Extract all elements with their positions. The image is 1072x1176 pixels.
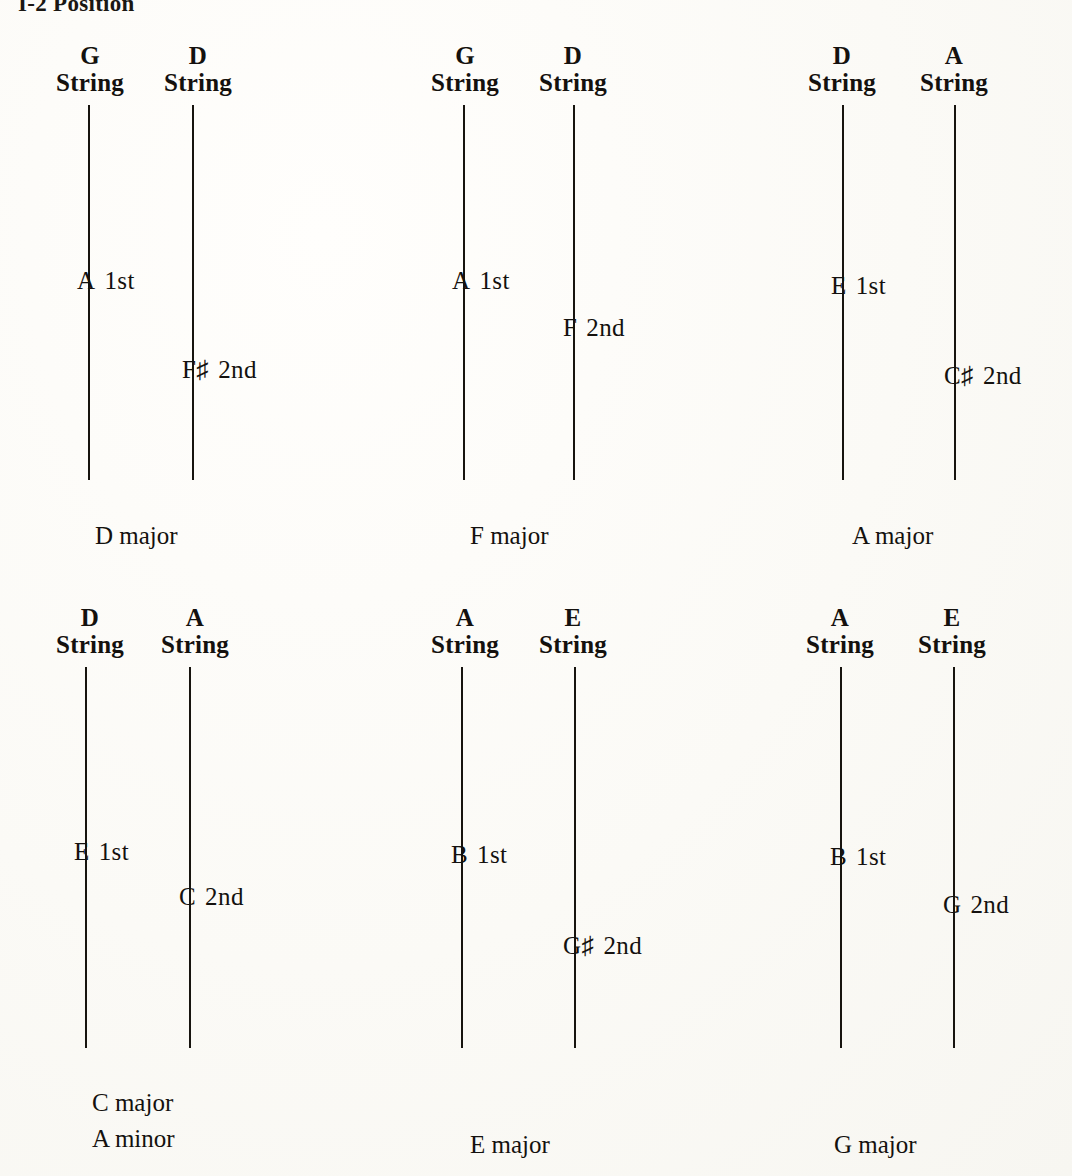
note-marker-right: F♯2nd <box>182 357 257 382</box>
chord-caption: G major <box>834 1127 917 1163</box>
string-line-right <box>573 105 575 480</box>
note-marker-name: G <box>943 891 961 918</box>
string-head-word: String <box>904 70 1004 97</box>
string-head-word: String <box>148 70 248 97</box>
string-head-left: G String <box>40 43 140 96</box>
note-marker-left: A1st <box>77 268 135 293</box>
caption-line: D major <box>95 518 178 554</box>
string-head-right: D String <box>148 43 248 96</box>
note-marker-name: E <box>74 838 90 865</box>
note-marker-right: G♯2nd <box>563 933 642 958</box>
note-marker-name: C <box>179 883 196 910</box>
string-line-right <box>192 105 194 480</box>
string-head-left: A String <box>790 605 890 658</box>
note-marker-finger: 2nd <box>205 883 244 910</box>
string-head-note: A <box>790 605 890 632</box>
note-marker-name: F <box>563 314 577 341</box>
note-marker-right: G2nd <box>943 892 1009 917</box>
string-head-right: E String <box>523 605 623 658</box>
string-head-note: D <box>792 43 892 70</box>
string-head-word: String <box>790 632 890 659</box>
string-head-word: String <box>792 70 892 97</box>
string-head-left: D String <box>40 605 140 658</box>
note-marker-finger: 1st <box>477 841 507 868</box>
note-marker-accidental: ♯ <box>196 356 209 383</box>
string-head-word: String <box>415 70 515 97</box>
string-head-note: D <box>523 43 623 70</box>
string-head-right: D String <box>523 43 623 96</box>
note-marker-name: A <box>452 267 470 294</box>
note-marker-name: B <box>451 841 468 868</box>
note-marker-finger: 2nd <box>603 932 642 959</box>
note-marker-finger: 2nd <box>218 356 257 383</box>
chord-caption: D major <box>95 518 178 554</box>
string-head-note: E <box>523 605 623 632</box>
note-marker-right: C♯2nd <box>944 363 1022 388</box>
string-line-right <box>574 667 576 1048</box>
caption-line: A minor <box>92 1121 175 1157</box>
string-head-word: String <box>523 632 623 659</box>
chord-diagram-grid: G String D String A1st F♯2nd D major G S… <box>0 0 1072 1176</box>
note-marker-right: C2nd <box>179 884 244 909</box>
string-head-word: String <box>40 632 140 659</box>
note-marker-finger: 1st <box>99 838 129 865</box>
string-head-left: D String <box>792 43 892 96</box>
note-marker-name: C <box>944 362 961 389</box>
string-head-note: D <box>40 605 140 632</box>
note-marker-finger: 2nd <box>970 891 1009 918</box>
string-line-right <box>189 667 191 1048</box>
note-marker-name: F <box>182 356 196 383</box>
note-marker-name: G <box>563 932 581 959</box>
string-head-word: String <box>415 632 515 659</box>
string-line-right <box>953 667 955 1048</box>
note-marker-left: B1st <box>830 844 886 869</box>
chord-caption: A major <box>852 518 933 554</box>
note-marker-accidental: ♯ <box>581 932 594 959</box>
string-line-right <box>954 105 956 480</box>
string-head-right: A String <box>145 605 245 658</box>
note-marker-finger: 1st <box>104 267 134 294</box>
string-head-note: A <box>145 605 245 632</box>
note-marker-finger: 1st <box>856 843 886 870</box>
string-head-word: String <box>145 632 245 659</box>
string-head-word: String <box>523 70 623 97</box>
caption-line: A major <box>852 518 933 554</box>
string-head-note: G <box>415 43 515 70</box>
string-head-note: D <box>148 43 248 70</box>
string-head-note: A <box>415 605 515 632</box>
chord-caption: C major A minor <box>92 1085 175 1156</box>
caption-line: G major <box>834 1127 917 1163</box>
string-head-word: String <box>902 632 1002 659</box>
caption-line: F major <box>470 518 548 554</box>
note-marker-accidental: ♯ <box>961 362 974 389</box>
note-marker-right: F2nd <box>563 315 625 340</box>
note-marker-name: A <box>77 267 95 294</box>
caption-line: C major <box>92 1085 175 1121</box>
string-head-right: E String <box>902 605 1002 658</box>
string-head-note: G <box>40 43 140 70</box>
string-head-right: A String <box>904 43 1004 96</box>
string-head-left: G String <box>415 43 515 96</box>
note-marker-finger: 1st <box>856 272 886 299</box>
note-marker-finger: 2nd <box>586 314 625 341</box>
note-marker-finger: 2nd <box>983 362 1022 389</box>
string-head-word: String <box>40 70 140 97</box>
string-head-note: A <box>904 43 1004 70</box>
chord-caption: F major <box>470 518 548 554</box>
note-marker-finger: 1st <box>479 267 509 294</box>
note-marker-name: E <box>831 272 847 299</box>
caption-line: E major <box>470 1127 550 1163</box>
string-head-left: A String <box>415 605 515 658</box>
chord-caption: E major <box>470 1127 550 1163</box>
string-head-note: E <box>902 605 1002 632</box>
note-marker-left: E1st <box>831 273 886 298</box>
note-marker-left: B1st <box>451 842 507 867</box>
note-marker-left: E1st <box>74 839 129 864</box>
note-marker-left: A1st <box>452 268 510 293</box>
note-marker-name: B <box>830 843 847 870</box>
